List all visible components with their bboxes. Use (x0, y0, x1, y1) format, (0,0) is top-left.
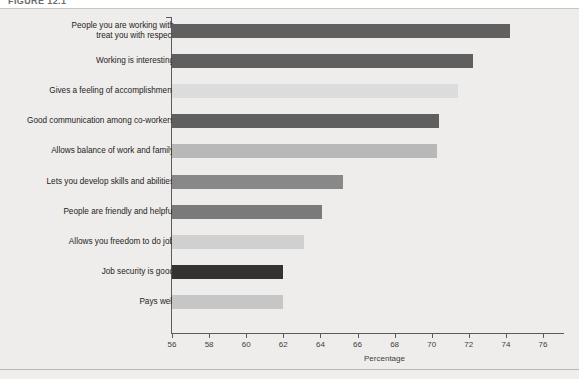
bar (172, 114, 439, 128)
figure-caption-text: FIGURE 12.1 (8, 0, 66, 6)
bar-category-label: Allows you freedom to do job (69, 237, 174, 247)
bar-category-label: Job security is good (102, 267, 174, 277)
figure-bottom-rule (0, 369, 579, 370)
bar (172, 175, 343, 189)
bar (172, 144, 437, 158)
x-axis-tick-mark (432, 334, 433, 338)
x-axis-tick-label: 60 (242, 340, 251, 349)
figure-root: FIGURE 12.1 5658606264666870727476 Peopl… (0, 0, 579, 379)
bar-category-label: People are friendly and helpful (63, 207, 174, 217)
bar (172, 205, 322, 219)
x-axis-tick-label: 76 (539, 340, 548, 349)
y-axis-top-tick (166, 17, 171, 18)
x-axis-tick-label: 64 (316, 340, 325, 349)
x-axis-tick-mark (395, 334, 396, 338)
x-axis-tick-label: 72 (464, 340, 473, 349)
bar (172, 265, 283, 279)
x-axis-tick-label: 70 (427, 340, 436, 349)
x-axis-tick-label: 74 (501, 340, 510, 349)
x-axis-tick-mark (358, 334, 359, 338)
x-axis-tick-mark (543, 334, 544, 338)
x-axis-tick-label: 56 (168, 340, 177, 349)
bar-category-label: Good communication among co-workers (27, 116, 174, 126)
x-axis-tick-mark (283, 334, 284, 338)
x-axis-tick-mark (209, 334, 210, 338)
x-axis-tick-mark (246, 334, 247, 338)
bar-category-label: People you are working with treat you wi… (72, 21, 174, 41)
bar-category-label: Lets you develop skills and abilities (47, 177, 174, 187)
bar-category-label: Pays well (139, 297, 174, 307)
x-axis-tick-label: 62 (279, 340, 288, 349)
x-axis-tick-mark (320, 334, 321, 338)
x-axis-tick-label: 68 (390, 340, 399, 349)
bar (172, 84, 458, 98)
bar-category-label: Working is interesting (96, 56, 174, 66)
x-axis-tick-mark (469, 334, 470, 338)
x-axis-title: Percentage (0, 354, 579, 363)
x-axis-tick-mark (506, 334, 507, 338)
bar-category-label: Allows balance of work and family (51, 146, 174, 156)
x-axis-tick-mark (172, 334, 173, 338)
x-axis-tick-label: 58 (205, 340, 214, 349)
x-axis-tick-label: 66 (353, 340, 362, 349)
bar (172, 295, 283, 309)
bar-category-label: Gives a feeling of accomplishment (49, 86, 174, 96)
bar (172, 24, 510, 38)
bar (172, 235, 304, 249)
figure-caption-strip: FIGURE 12.1 (0, 0, 579, 9)
bar (172, 54, 473, 68)
